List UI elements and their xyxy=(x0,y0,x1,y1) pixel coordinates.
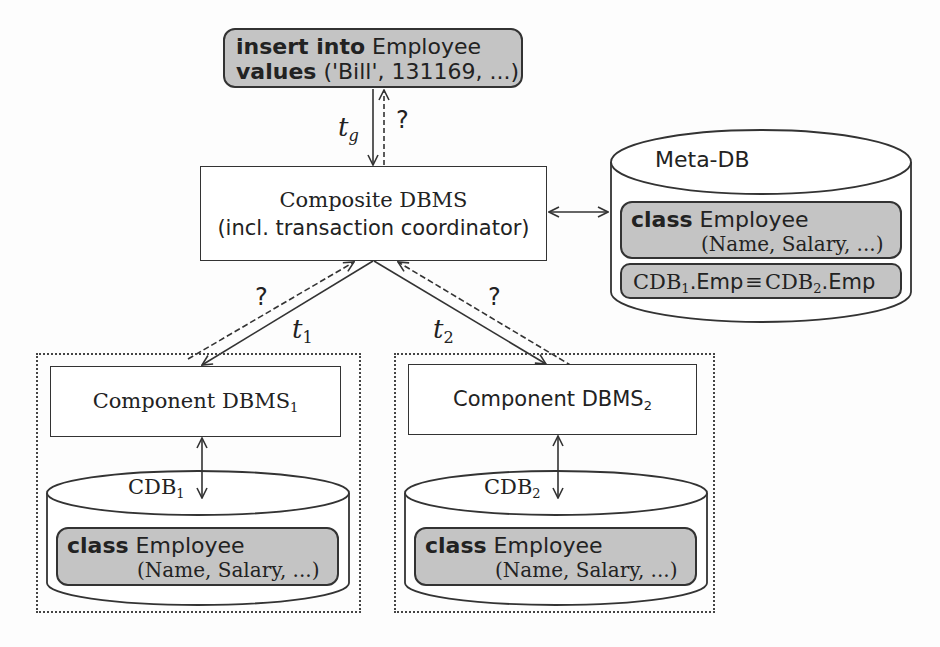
cdb1-class-attrs: (Name, Salary, ...) xyxy=(67,558,337,583)
insert-keyword: insert into xyxy=(236,34,365,59)
insert-target: Employee xyxy=(365,34,481,59)
cdb1-class-box: class Employee (Name, Salary, ...) xyxy=(56,527,339,586)
class-name: Employee xyxy=(487,533,603,558)
t2-response-arrow xyxy=(398,262,572,366)
mapping-right-db: CDB xyxy=(765,270,813,294)
t2-label: t2 xyxy=(433,314,454,347)
cdb2-class-attrs: (Name, Salary, ...) xyxy=(425,558,695,583)
composite-subtitle: (incl. transaction coordinator) xyxy=(217,214,529,242)
class-keyword: class xyxy=(425,533,487,558)
meta-db-mapping-box: CDB1.Emp≡CDB2.Emp xyxy=(620,263,902,299)
cdb1-class-line: class Employee xyxy=(67,533,337,558)
class-name: Employee xyxy=(693,207,809,232)
query-line-1: insert into Employee xyxy=(236,34,521,59)
cdb2-class-box: class Employee (Name, Salary, ...) xyxy=(414,527,697,586)
meta-db-class-line: class Employee xyxy=(631,207,900,232)
mapping-right-sub: 2 xyxy=(813,281,821,296)
query-box: insert into Employee values ('Bill', 131… xyxy=(223,28,523,88)
query-line-2: values ('Bill', 131169, ...) xyxy=(236,59,521,84)
equivalence-operator: ≡ xyxy=(743,270,765,294)
composite-title: Composite DBMS xyxy=(280,186,468,214)
component-2-label: Component DBMS2 xyxy=(453,387,652,413)
values-list: ('Bill', 131169, ...) xyxy=(316,59,519,84)
tg-unknown-label: ? xyxy=(396,106,409,134)
t2-arrow xyxy=(374,261,546,364)
component-dbms-2-box: Component DBMS2 xyxy=(408,364,697,435)
class-keyword: class xyxy=(67,533,129,558)
mapping-left-sub: 1 xyxy=(681,281,689,296)
mapping-left-rest: .Emp xyxy=(690,270,744,294)
meta-db-title: Meta-DB xyxy=(655,147,750,172)
meta-db-class-box: class Employee (Name, Salary, ...) xyxy=(620,201,902,259)
cdb1-label: CDB1 xyxy=(128,475,185,501)
composite-dbms-diagram: insert into Employee values ('Bill', 131… xyxy=(0,0,940,647)
t1-label: t1 xyxy=(292,314,313,347)
meta-db-class-attrs: (Name, Salary, ...) xyxy=(631,232,900,257)
mapping-right-rest: .Emp xyxy=(822,270,876,294)
t1-arrow xyxy=(202,261,373,365)
component-1-label: Component DBMS1 xyxy=(93,389,299,415)
cdb2-label: CDB2 xyxy=(484,475,541,501)
class-keyword: class xyxy=(631,207,693,232)
cdb2-class-line: class Employee xyxy=(425,533,695,558)
t1-unknown-label: ? xyxy=(255,283,268,311)
mapping-left-db: CDB xyxy=(633,270,681,294)
t2-unknown-label: ? xyxy=(488,283,501,311)
tg-label: tg xyxy=(338,112,359,145)
t1-response-arrow xyxy=(188,262,354,359)
values-keyword: values xyxy=(236,59,316,84)
class-name: Employee xyxy=(129,533,245,558)
composite-dbms-box: Composite DBMS (incl. transaction coordi… xyxy=(200,166,547,261)
component-dbms-1-box: Component DBMS1 xyxy=(50,366,341,437)
